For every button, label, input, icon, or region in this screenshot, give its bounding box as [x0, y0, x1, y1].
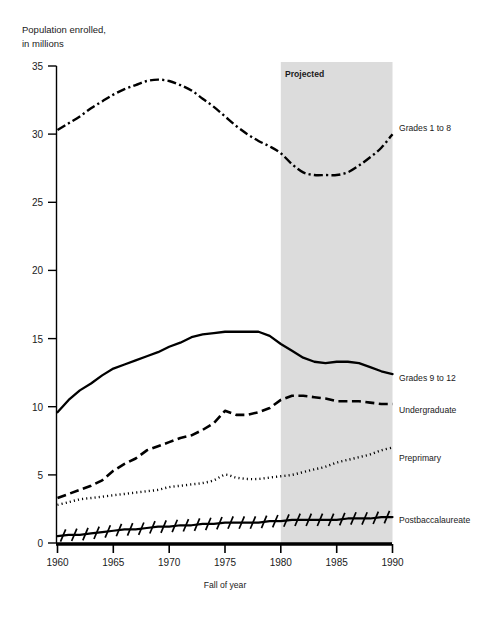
- x-label-1985: 1985: [326, 557, 349, 568]
- series-label-grades-9-to-12: Grades 9 to 12: [399, 373, 456, 383]
- projected-label: Projected: [285, 69, 324, 79]
- y-axis-tick-labels: 35 30 25 20 15 10 5 0: [32, 61, 44, 549]
- y-label-35: 35: [32, 61, 44, 72]
- y-axis-title-line1: Population enrolled,: [22, 24, 106, 35]
- x-label-1980: 1980: [270, 557, 293, 568]
- x-axis-caption: Fall of year: [204, 580, 247, 590]
- x-label-1990: 1990: [381, 557, 404, 568]
- projected-shaded-region: [281, 62, 393, 543]
- x-label-1975: 1975: [214, 557, 237, 568]
- chart-container: Population enrolled, in millions Project…: [0, 0, 484, 617]
- y-label-0: 0: [37, 538, 43, 549]
- y-label-30: 30: [32, 129, 44, 140]
- y-label-15: 15: [32, 334, 44, 345]
- y-label-20: 20: [32, 265, 44, 276]
- y-axis-title-line2: in millions: [22, 38, 64, 49]
- enrollment-line-chart: Population enrolled, in millions Project…: [0, 0, 484, 617]
- y-label-25: 25: [32, 197, 44, 208]
- series-label-postbaccalaureate: Postbaccalaureate: [399, 515, 470, 525]
- x-label-1965: 1965: [102, 557, 125, 568]
- y-label-10: 10: [32, 402, 44, 413]
- x-axis-tick-labels: 1960 1965 1970 1975 1980 1985 1990: [46, 557, 404, 568]
- series-inline-labels: Grades 1 to 8 Grades 9 to 12 Undergradua…: [399, 123, 470, 525]
- y-label-5: 5: [37, 470, 43, 481]
- series-label-preprimary: Preprimary: [399, 453, 442, 463]
- x-label-1970: 1970: [158, 557, 181, 568]
- series-label-undergraduate: Undergraduate: [399, 405, 457, 415]
- series-label-grades-1-to-8: Grades 1 to 8: [399, 123, 451, 133]
- x-label-1960: 1960: [46, 557, 69, 568]
- y-axis-ticks: [48, 66, 57, 543]
